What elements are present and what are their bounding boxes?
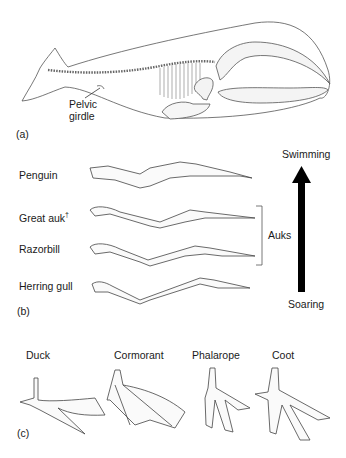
foot-label-duck: Duck <box>26 349 50 361</box>
swimming-soaring-arrow-icon <box>292 166 311 292</box>
panel-c-label: (c) <box>17 427 29 439</box>
row-label-herring-gull: Herring gull <box>19 280 73 292</box>
foot-label-cormorant: Cormorant <box>114 349 164 361</box>
auks-bracket <box>256 206 262 265</box>
pelvic-label-line2: girdle <box>69 110 97 122</box>
foot-label-phalarope: Phalarope <box>192 349 240 361</box>
soaring-label: Soaring <box>288 298 324 310</box>
illustration-canvas <box>0 0 346 458</box>
row-label-great-auk: Great auk† <box>19 209 69 224</box>
foot-label-coot: Coot <box>272 349 294 361</box>
row-label-penguin: Penguin <box>19 169 58 181</box>
swimming-label: Swimming <box>282 148 330 160</box>
auks-label: Auks <box>268 229 291 241</box>
figure: Pelvic girdle (a) Swimming Penguin Great… <box>0 0 346 458</box>
great-auk-name: Great auk <box>19 212 65 224</box>
extinct-dagger: † <box>65 211 69 218</box>
pelvic-label-line1: Pelvic <box>69 98 97 110</box>
pelvic-girdle-label: Pelvic girdle <box>69 98 97 122</box>
row-label-razorbill: Razorbill <box>19 243 60 255</box>
panel-a-label: (a) <box>16 128 29 140</box>
panel-b-label: (b) <box>17 305 30 317</box>
